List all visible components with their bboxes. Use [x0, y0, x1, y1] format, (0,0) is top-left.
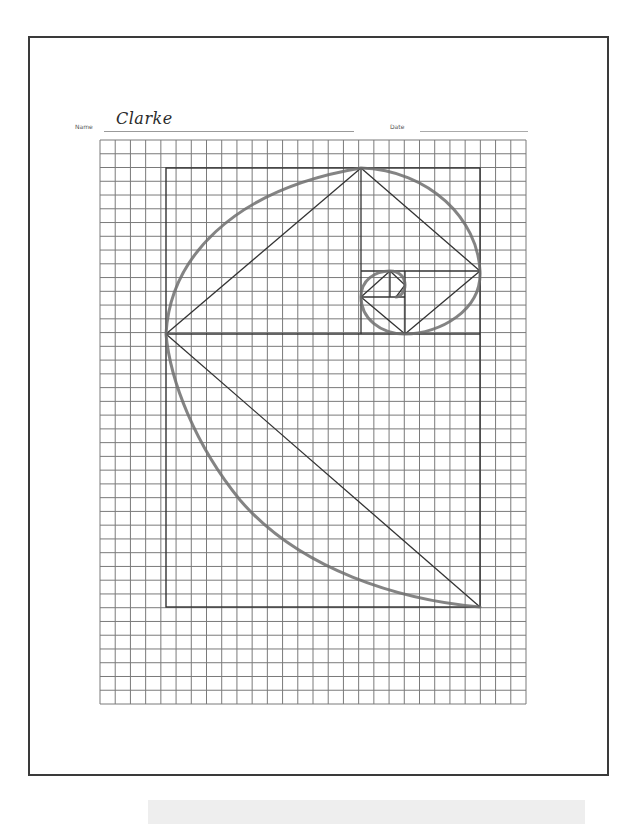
graph-paper-grid	[100, 140, 526, 704]
golden-spiral-drawing	[0, 0, 643, 824]
bottom-gray-bar	[148, 800, 585, 824]
